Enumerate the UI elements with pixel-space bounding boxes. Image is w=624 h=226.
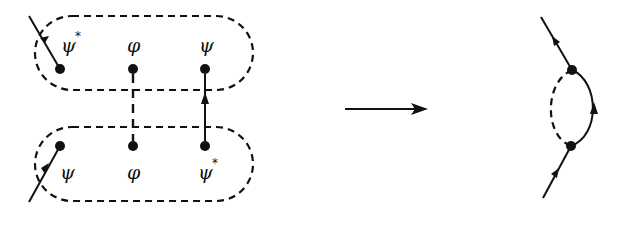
vertex-dot bbox=[55, 141, 65, 151]
top-field-sup-1: * bbox=[75, 29, 81, 43]
diagram-canvas: ψ * φ ψ ψ φ ψ * bbox=[0, 0, 624, 226]
top-field-label-2: φ bbox=[127, 34, 141, 56]
vertex-dot bbox=[128, 64, 138, 74]
vertex-dot bbox=[200, 64, 210, 74]
bottom-field-label-2: φ bbox=[127, 161, 141, 183]
psi-contraction-arrow-icon bbox=[201, 92, 209, 104]
vertex-dot bbox=[55, 64, 65, 74]
outgoing-arrow-icon bbox=[552, 36, 560, 46]
bottom-field-sup-3: * bbox=[212, 156, 218, 170]
bottom-external-line bbox=[29, 146, 60, 202]
transition-arrow bbox=[345, 103, 428, 115]
bottom-field-label-1: ψ bbox=[60, 161, 76, 183]
vertex-dot bbox=[566, 141, 576, 151]
vertex-dot bbox=[128, 141, 138, 151]
vertex-dot bbox=[200, 141, 210, 151]
incoming-arrow-icon bbox=[551, 168, 559, 178]
self-energy-diagram bbox=[541, 17, 598, 198]
fermion-arc bbox=[571, 70, 593, 146]
top-field-group: ψ * φ ψ bbox=[29, 16, 253, 90]
vertex-dot bbox=[567, 65, 577, 75]
bottom-field-group: ψ φ ψ * bbox=[29, 127, 253, 202]
top-field-label-3: ψ bbox=[199, 34, 215, 56]
boson-arc-dashed bbox=[551, 70, 572, 146]
fermion-arc-arrow-icon bbox=[590, 102, 598, 114]
contractions bbox=[133, 74, 209, 141]
